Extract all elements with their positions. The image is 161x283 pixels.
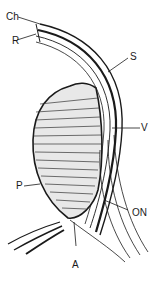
label-a: A — [72, 260, 79, 270]
diagram-drawing — [0, 0, 161, 283]
label-s: S — [130, 52, 137, 62]
label-ch: Ch — [6, 12, 19, 22]
papilla-body — [33, 83, 102, 218]
label-p: P — [16, 181, 23, 191]
label-v: V — [141, 123, 148, 133]
label-on: ON — [132, 208, 147, 218]
label-r: R — [12, 36, 19, 46]
